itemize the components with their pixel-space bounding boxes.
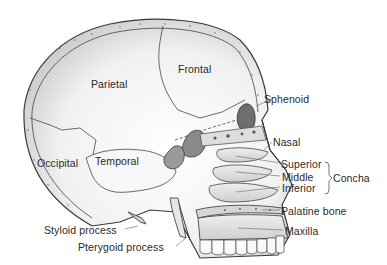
label-maxilla: Maxilla bbox=[285, 225, 318, 237]
concha-bracket bbox=[325, 162, 332, 194]
label-concha: Concha bbox=[333, 172, 370, 184]
label-concha-inferior: Inferior bbox=[282, 182, 315, 194]
label-occipital: Occipital bbox=[37, 157, 78, 169]
label-parietal: Parietal bbox=[91, 78, 127, 90]
label-nasal: Nasal bbox=[273, 136, 300, 148]
label-palatine-bone: Palatine bone bbox=[281, 205, 347, 217]
label-pterygoid-process: Pterygoid process bbox=[78, 241, 164, 253]
label-styloid-process: Styloid process bbox=[44, 224, 117, 236]
label-temporal: Temporal bbox=[95, 155, 139, 167]
label-frontal: Frontal bbox=[178, 63, 211, 75]
label-sphenoid: Sphenoid bbox=[264, 93, 309, 105]
label-concha-superior: Superior bbox=[281, 158, 322, 170]
skull-diagram: Parietal Frontal Sphenoid Nasal Occipita… bbox=[0, 0, 387, 265]
